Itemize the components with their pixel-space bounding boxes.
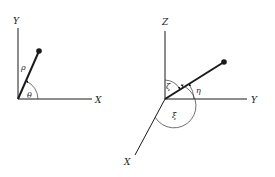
x-axis-label: X: [123, 157, 131, 167]
eta-arc: [189, 84, 194, 99]
eta-label: η: [196, 86, 201, 95]
theta-label: θ: [27, 91, 32, 100]
zeta-label: ζ: [166, 82, 171, 91]
y-axis-label: Y: [251, 95, 258, 105]
y-axis-label: Y: [13, 16, 20, 26]
radius-vector: [165, 62, 224, 99]
point-marker: [221, 59, 227, 65]
z-axis-label: Z: [161, 17, 169, 27]
polar-diagram: Y X ρ θ: [13, 16, 102, 105]
x-axis-label: X: [94, 95, 102, 105]
x-axis: [135, 99, 165, 155]
point-marker: [36, 48, 42, 54]
rho-label: ρ: [20, 63, 26, 72]
spherical-diagram: Z Y X ζ η ξ: [123, 17, 258, 167]
coordinate-diagrams: Y X ρ θ Z Y X ζ η ξ: [0, 0, 275, 177]
xi-label: ξ: [172, 111, 177, 120]
